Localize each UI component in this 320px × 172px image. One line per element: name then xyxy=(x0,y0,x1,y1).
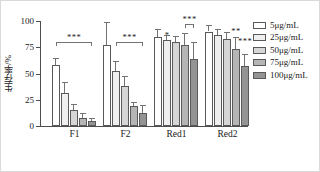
significance-label: ** xyxy=(231,28,241,35)
bar-group-bars xyxy=(154,21,198,126)
error-bar-cap xyxy=(80,113,86,114)
y-tick-label: 0 xyxy=(30,122,35,131)
legend-swatch xyxy=(253,59,266,66)
error-bar xyxy=(244,54,245,67)
bar-group: Red1 xyxy=(154,21,199,126)
bar[interactable] xyxy=(52,65,60,126)
bar[interactable] xyxy=(232,49,240,126)
error-bar-cap xyxy=(224,32,230,33)
legend-item[interactable]: 50μg/mL xyxy=(253,45,308,55)
error-bar-cap xyxy=(113,61,119,62)
legend-swatch xyxy=(253,22,266,29)
error-bar xyxy=(184,33,185,46)
significance-label: *** xyxy=(122,34,136,41)
plot-area: 0255075100 F1F2Red1Red2 *************** xyxy=(40,21,248,126)
y-tick-label: 75 xyxy=(25,43,34,52)
bar[interactable] xyxy=(172,42,180,126)
error-bar xyxy=(64,82,65,94)
legend-swatch xyxy=(253,72,266,79)
legend-item[interactable]: 25μg/mL xyxy=(253,33,308,43)
x-tick-label: Red1 xyxy=(154,129,199,139)
bar[interactable] xyxy=(130,106,138,126)
error-bar xyxy=(142,105,143,113)
legend-item[interactable]: 100μg/mL xyxy=(253,70,308,80)
bar-slot xyxy=(103,21,111,126)
legend: 5μg/mL25μg/mL50μg/mL75μg/mL100μg/mL xyxy=(253,20,308,80)
bar-slot xyxy=(223,21,231,126)
significance-bracket xyxy=(56,42,92,46)
x-tick-label: Red2 xyxy=(205,129,250,139)
legend-label: 50μg/mL xyxy=(270,46,303,55)
legend-label: 25μg/mL xyxy=(270,33,303,42)
error-bar xyxy=(115,61,116,72)
bar[interactable] xyxy=(181,45,189,126)
y-tick xyxy=(36,74,40,75)
error-bar-cap xyxy=(104,22,110,23)
bar[interactable] xyxy=(103,45,111,126)
bar[interactable] xyxy=(205,32,213,127)
significance-bracket xyxy=(116,42,143,46)
error-bar-cap xyxy=(131,102,137,103)
significance-label: *** xyxy=(238,38,252,45)
legend-label: 75μg/mL xyxy=(270,58,303,67)
bar[interactable] xyxy=(70,110,78,126)
y-tick xyxy=(36,21,40,22)
y-tick-label: 50 xyxy=(25,70,34,79)
bar[interactable] xyxy=(79,118,87,126)
y-tick xyxy=(36,126,40,127)
significance-label: * xyxy=(165,32,170,39)
legend-swatch xyxy=(253,47,266,54)
error-bar xyxy=(55,58,56,65)
bar[interactable] xyxy=(88,121,96,126)
error-bar xyxy=(193,42,194,59)
bar[interactable] xyxy=(163,40,171,126)
bar-slot xyxy=(112,21,120,126)
bar-chart-figure: 生存率/% 0255075100 F1F2Red1Red2 **********… xyxy=(0,0,320,172)
bar-slot xyxy=(214,21,222,126)
bar-slot xyxy=(52,21,60,126)
bar-slot xyxy=(88,21,96,126)
bar-slot xyxy=(139,21,147,126)
error-bar-cap xyxy=(155,29,161,30)
error-bar-cap xyxy=(242,54,248,55)
bar[interactable] xyxy=(214,35,222,126)
y-tick-label: 100 xyxy=(21,17,35,26)
error-bar-cap xyxy=(122,76,128,77)
error-bar-cap xyxy=(71,104,77,105)
bar-slot xyxy=(190,21,198,126)
error-bar-cap xyxy=(182,33,188,34)
bar[interactable] xyxy=(112,71,120,126)
bar-slot xyxy=(181,21,189,126)
error-bar xyxy=(106,22,107,45)
error-bar-cap xyxy=(215,29,221,30)
legend-item[interactable]: 5μg/mL xyxy=(253,20,308,30)
bar[interactable] xyxy=(223,39,231,126)
significance-label: *** xyxy=(182,16,196,23)
error-bar-cap xyxy=(206,25,212,26)
error-bar-cap xyxy=(173,36,179,37)
legend-item[interactable]: 75μg/mL xyxy=(253,58,308,68)
bar[interactable] xyxy=(241,66,249,126)
significance-label: *** xyxy=(67,34,81,41)
y-tick xyxy=(36,47,40,48)
legend-swatch xyxy=(253,34,266,41)
bar[interactable] xyxy=(61,93,69,126)
bar[interactable] xyxy=(190,59,198,126)
x-axis-line xyxy=(40,126,248,127)
bar[interactable] xyxy=(139,113,147,126)
bar[interactable] xyxy=(154,37,162,126)
y-tick-label: 25 xyxy=(25,96,34,105)
legend-label: 5μg/mL xyxy=(270,21,299,30)
error-bar-cap xyxy=(191,42,197,43)
error-bar-cap xyxy=(62,82,68,83)
significance-bracket xyxy=(185,24,194,28)
error-bar-cap xyxy=(89,118,95,119)
x-tick-label: F2 xyxy=(103,129,148,139)
legend-label: 100μg/mL xyxy=(270,71,308,80)
y-axis-title: 生存率/% xyxy=(3,55,15,92)
y-axis-line xyxy=(40,21,41,126)
error-bar xyxy=(124,76,125,87)
y-tick xyxy=(36,100,40,101)
bar-slot xyxy=(154,21,162,126)
bar[interactable] xyxy=(121,86,129,126)
